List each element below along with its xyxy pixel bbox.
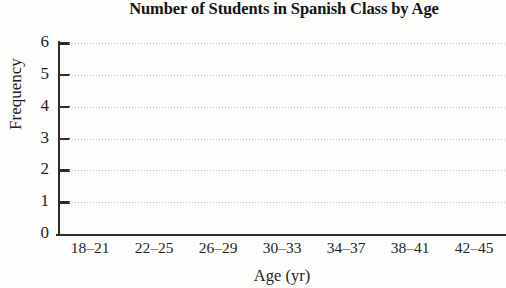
gridline — [69, 107, 506, 108]
chart-figure: Number of Students in Spanish Class by A… — [0, 0, 506, 288]
y-tick-label: 0 — [41, 223, 50, 243]
x-tick-label: 22–25 — [122, 238, 186, 257]
x-tick-label: 26–29 — [186, 238, 250, 257]
x-axis-title: Age (yr) — [58, 266, 506, 286]
y-tick-label: 6 — [41, 32, 50, 52]
y-tick-label: 3 — [41, 128, 50, 148]
gridline — [69, 139, 506, 140]
y-tick-label: 2 — [41, 159, 50, 179]
y-tick-label: 4 — [41, 96, 50, 116]
plot-area: 6 5 4 3 2 1 0 — [58, 43, 506, 234]
chart-title: Number of Students in Spanish Class by A… — [0, 0, 506, 19]
y-axis-title: Frequency — [6, 38, 26, 150]
x-tick-labels: 18–21 22–25 26–29 30–33 34–37 38–41 42–4… — [58, 238, 506, 257]
x-tick-label: 42–45 — [442, 238, 506, 257]
gridline — [69, 202, 506, 203]
x-tick-label: 30–33 — [250, 238, 314, 257]
gridline — [69, 170, 506, 171]
gridline — [69, 75, 506, 76]
y-tick-label: 5 — [41, 64, 50, 84]
gridline — [69, 43, 506, 44]
x-axis-line — [56, 234, 506, 236]
y-tick-label: 1 — [41, 191, 50, 211]
x-tick-label: 18–21 — [58, 238, 122, 257]
x-tick-label: 34–37 — [314, 238, 378, 257]
x-tick-label: 38–41 — [378, 238, 442, 257]
